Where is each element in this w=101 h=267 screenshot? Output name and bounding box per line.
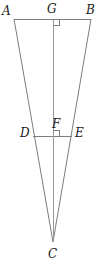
vertex-label-e: E — [75, 127, 84, 139]
vertex-label-a: A — [2, 5, 11, 17]
vertex-label-c: C — [48, 248, 57, 260]
vertex-label-b: B — [86, 4, 95, 16]
geometry-figure: A B C D E F G — [0, 0, 101, 267]
vertex-label-d: D — [20, 127, 30, 139]
right-angle-mark-g — [53, 19, 59, 25]
vertex-label-f: F — [52, 118, 60, 130]
figure-canvas — [0, 0, 101, 267]
vertex-label-g: G — [47, 3, 57, 15]
